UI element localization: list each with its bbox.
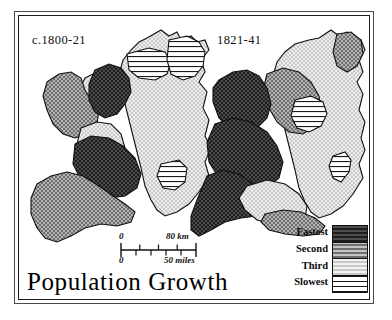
page-title: Population Growth bbox=[27, 268, 228, 296]
legend-label-fastest: Fastest bbox=[276, 224, 328, 241]
scale-km-max-label: 80 km bbox=[166, 231, 189, 241]
legend-label-slowest: Slowest bbox=[276, 274, 328, 291]
legend-label-third: Third bbox=[276, 258, 328, 275]
population-growth-figure: c.1800-21 1821-41 0 80 km 0 50 miles Fas… bbox=[0, 0, 392, 320]
legend-swatch-second bbox=[333, 243, 367, 260]
map-panel-right bbox=[191, 30, 365, 236]
legend-swatch-third bbox=[333, 259, 367, 276]
legend-swatches bbox=[332, 225, 368, 293]
legend: Fastest Second Third Slowest bbox=[276, 222, 370, 296]
legend-swatch-fastest bbox=[333, 226, 367, 243]
region-north-midlands-left bbox=[89, 64, 131, 118]
scale-miles-max-label: 50 miles bbox=[164, 255, 195, 265]
legend-labels: Fastest Second Third Slowest bbox=[276, 224, 328, 291]
map-panel-left bbox=[31, 30, 211, 242]
scale-km-zero-label: 0 bbox=[119, 231, 124, 241]
panel-date-label-left: c.1800-21 bbox=[32, 33, 86, 48]
panel-date-label-right: 1821-41 bbox=[217, 33, 261, 48]
legend-label-second: Second bbox=[276, 241, 328, 258]
scale-bar: 0 80 km 0 50 miles bbox=[118, 231, 214, 267]
scale-miles-zero-label: 0 bbox=[119, 255, 124, 265]
legend-swatch-slowest bbox=[333, 276, 367, 293]
